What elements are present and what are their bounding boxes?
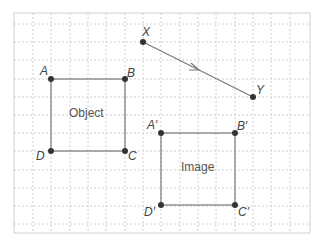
diagram-canvas: A B C D Object X Y A′ B′ C′ D′ Image — [0, 0, 321, 244]
object-label: Object — [69, 106, 104, 120]
point-a — [48, 76, 54, 82]
label-c: C — [128, 149, 137, 163]
frame — [14, 13, 310, 233]
point-a-prime — [158, 130, 164, 136]
label-b: B — [127, 66, 135, 80]
label-y: Y — [256, 83, 265, 97]
label-a: A — [39, 64, 48, 78]
label-a-prime: A′ — [146, 118, 158, 132]
image-label: Image — [181, 160, 215, 174]
label-d: D — [36, 149, 45, 163]
point-d-prime — [158, 202, 164, 208]
point-x — [140, 39, 146, 45]
label-x: X — [141, 25, 151, 39]
label-c-prime: C′ — [238, 205, 250, 219]
label-b-prime: B′ — [237, 119, 248, 133]
point-d — [48, 148, 54, 154]
label-d-prime: D′ — [144, 205, 156, 219]
